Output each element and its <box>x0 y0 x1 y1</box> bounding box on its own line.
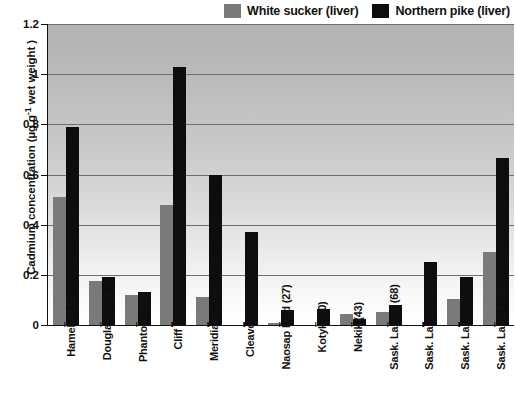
bar-group <box>227 24 263 325</box>
x-axis-tick-label: Sask. Lake 4 (84) <box>495 284 507 369</box>
y-axis-tick-label: 0.6 <box>23 169 39 181</box>
bar <box>125 295 138 325</box>
y-axis-tick <box>41 175 48 176</box>
bar-group <box>84 24 120 325</box>
bar-group <box>478 24 514 325</box>
x-axis-tick-label: Cliff (5.6) <box>172 305 184 350</box>
y-axis-tick-label: 0.4 <box>23 219 39 231</box>
x-axis-tick-label: Sask. Lake 3 (83) <box>459 284 471 369</box>
x-axis-label-cell: Meridian (7.6) <box>190 327 226 414</box>
x-axis-tick-label: Douglas (5.0) <box>101 294 113 360</box>
y-axis-title-main: Cadmium concentration (µg.g <box>25 115 37 275</box>
y-axis-tick <box>41 24 48 25</box>
bar-group <box>299 24 335 325</box>
x-axis-tick-label: Meridian (7.6) <box>208 293 220 361</box>
x-axis-label-cell: Sask. Lake 4 (84) <box>477 327 513 414</box>
bar <box>89 281 102 325</box>
x-axis-label-cell: Hamell (4.5) <box>47 327 83 414</box>
x-axis-tick-label: Kotyk (30) <box>316 301 328 352</box>
y-axis-tick <box>41 74 48 75</box>
y-axis-tick <box>41 124 48 125</box>
y-axis-tick-label: 1.2 <box>23 18 39 30</box>
bar-group <box>442 24 478 325</box>
legend-label-white-sucker: White sucker (liver) <box>247 4 358 18</box>
x-axis-tick-label: Sask. Lake 2 (74) <box>423 284 435 369</box>
legend-swatch-white-sucker <box>224 4 241 18</box>
x-axis-label-cell: Kotyk (30) <box>298 327 334 414</box>
x-axis-tick-label: Hamell (4.5) <box>65 297 77 356</box>
y-axis-tick-label: 0 <box>33 319 39 331</box>
x-axis-label-cell: Sask. Lake 1 (68) <box>370 327 406 414</box>
legend-item-northern-pike: Northern pike (liver) <box>372 4 510 18</box>
y-axis-tick <box>41 225 48 226</box>
plot-area: 1.210.80.60.40.20 <box>47 24 514 326</box>
x-axis-label-cell: Cliff (5.6) <box>155 327 191 414</box>
x-axis-label-container: Hamell (4.5)Douglas (5.0)Phantom (5.4)Cl… <box>47 327 513 414</box>
x-axis-label-cell: Cleaver (23) <box>226 327 262 414</box>
x-axis-label-cell: Nekik (43) <box>334 327 370 414</box>
bar <box>53 197 66 325</box>
y-axis-tick <box>41 325 48 326</box>
bar-group <box>120 24 156 325</box>
y-axis-tick-label: 0.2 <box>23 269 39 281</box>
x-axis-label-cell: Sask. Lake 2 (74) <box>405 327 441 414</box>
bar <box>173 67 186 325</box>
x-axis-label-cell: Phantom (5.4) <box>119 327 155 414</box>
x-axis-tick-label: Phantom (5.4) <box>137 292 149 362</box>
y-axis-tick <box>41 275 48 276</box>
bar-group <box>371 24 407 325</box>
x-axis-label-cell: Naosap Mud (27) <box>262 327 298 414</box>
bar-group <box>263 24 299 325</box>
legend-label-northern-pike: Northern pike (liver) <box>395 4 510 18</box>
bar-group <box>406 24 442 325</box>
legend-item-white-sucker: White sucker (liver) <box>224 4 358 18</box>
x-axis-tick-label: Sask. Lake 1 (68) <box>388 284 400 369</box>
bar-group <box>191 24 227 325</box>
chart-legend: White sucker (liver) Northern pike (live… <box>0 2 516 20</box>
x-axis-tick-label: Cleaver (23) <box>244 297 256 357</box>
x-axis-tick-label: Naosap Mud (27) <box>280 284 292 369</box>
y-axis-tick-label: 1 <box>33 68 39 80</box>
bar-group <box>335 24 371 325</box>
legend-swatch-northern-pike <box>372 4 389 18</box>
bar-group <box>156 24 192 325</box>
bar-group <box>48 24 84 325</box>
x-axis-label-cell: Sask. Lake 3 (83) <box>441 327 477 414</box>
x-axis-label-cell: Douglas (5.0) <box>83 327 119 414</box>
bar-series-container <box>48 24 514 325</box>
chart-figure: White sucker (liver) Northern pike (live… <box>0 0 516 414</box>
y-axis-tick-label: 0.8 <box>23 118 39 130</box>
x-axis-tick-label: Nekik (43) <box>352 302 364 352</box>
bar <box>66 127 79 325</box>
y-axis-title-exponent: -1 <box>23 108 33 115</box>
